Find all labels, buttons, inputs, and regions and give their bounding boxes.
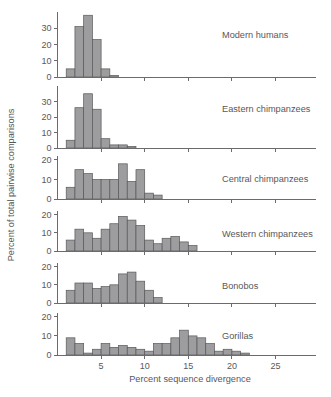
bar xyxy=(119,164,128,199)
panel-label-3: Central chimpanzees xyxy=(222,174,309,184)
bar xyxy=(119,216,128,251)
y-tick-label: 10 xyxy=(41,175,51,185)
bar xyxy=(145,351,154,355)
bar xyxy=(171,338,180,355)
panel-3: 01020Central chimpanzees xyxy=(41,155,316,204)
y-tick-label: 0 xyxy=(46,246,51,256)
panel-label-2: Eastern chimpanzees xyxy=(222,104,311,114)
y-tick-label: 10 xyxy=(41,280,51,290)
bar xyxy=(171,236,180,251)
y-tick-label: 20 xyxy=(41,155,51,165)
bar xyxy=(162,238,171,251)
y-tick-label: 0 xyxy=(46,143,51,153)
bar xyxy=(127,181,136,199)
bar xyxy=(101,179,110,199)
bar xyxy=(84,174,93,199)
panel-5: 01020Bonobos xyxy=(41,262,316,308)
bar xyxy=(127,220,136,251)
panel-3-bars xyxy=(66,164,162,199)
y-axis-title: Percent of total pairwise comparisons xyxy=(6,108,16,261)
bar xyxy=(92,288,101,303)
bar xyxy=(92,238,101,251)
bar xyxy=(180,330,189,355)
bar xyxy=(223,349,232,355)
bar xyxy=(101,229,110,251)
y-tick-label: 10 xyxy=(41,331,51,341)
bar xyxy=(84,15,93,77)
panel-2-bars xyxy=(66,94,136,148)
bar xyxy=(136,170,145,199)
panel-5-bars xyxy=(66,272,162,303)
bar xyxy=(153,344,162,355)
x-tick-label: 15 xyxy=(183,361,193,371)
x-tick-label: 20 xyxy=(227,361,237,371)
bar xyxy=(136,281,145,303)
x-tick-label: 5 xyxy=(99,361,104,371)
bar xyxy=(162,344,171,355)
bar xyxy=(75,229,84,251)
y-tick-label: 10 xyxy=(41,128,51,138)
bar xyxy=(66,290,75,303)
bar xyxy=(188,246,197,251)
bar xyxy=(153,298,162,303)
bar xyxy=(145,193,154,199)
y-tick-label: 0 xyxy=(46,72,51,82)
bar xyxy=(84,233,93,251)
y-tick-label: 20 xyxy=(41,40,51,50)
bar xyxy=(101,344,110,355)
bar xyxy=(110,224,119,251)
bar xyxy=(75,170,84,199)
y-tick-label: 0 xyxy=(46,350,51,360)
panel-1-bars xyxy=(66,15,118,77)
bar xyxy=(136,226,145,251)
bar xyxy=(145,290,154,303)
panel-label-5: Bonobos xyxy=(222,281,259,291)
y-tick-label: 20 xyxy=(41,112,51,122)
bar xyxy=(136,349,145,355)
y-tick-label: 30 xyxy=(41,97,51,107)
panel-6: 01020510152025Gorillas xyxy=(41,312,316,371)
bar xyxy=(66,338,75,355)
bar xyxy=(110,347,119,355)
y-tick-label: 0 xyxy=(46,298,51,308)
bar xyxy=(153,195,162,199)
bar xyxy=(84,283,93,303)
bar xyxy=(188,336,197,355)
bar xyxy=(127,272,136,303)
bar xyxy=(101,287,110,303)
x-tick-label: 25 xyxy=(270,361,280,371)
y-tick-label: 20 xyxy=(41,312,51,322)
bar xyxy=(110,179,119,199)
bar xyxy=(66,187,75,199)
y-tick-label: 0 xyxy=(46,194,51,204)
bar xyxy=(75,27,84,77)
bar xyxy=(75,283,84,303)
bar xyxy=(75,108,84,148)
bar xyxy=(119,345,128,355)
y-tick-label: 10 xyxy=(41,56,51,66)
y-tick-label: 10 xyxy=(41,228,51,238)
histogram-figure: 0102030Modern humans0102030Eastern chimp… xyxy=(0,0,331,397)
bar xyxy=(92,109,101,148)
bar xyxy=(197,338,206,355)
x-tick-label: 10 xyxy=(140,361,150,371)
bar xyxy=(206,344,215,355)
bar xyxy=(110,285,119,303)
bar xyxy=(214,351,223,355)
y-tick-label: 20 xyxy=(41,262,51,272)
panel-2: 0102030Eastern chimpanzees xyxy=(41,86,316,153)
bar xyxy=(66,140,75,148)
panel-1: 0102030Modern humans xyxy=(41,12,316,82)
bar xyxy=(145,240,154,251)
y-tick-label: 30 xyxy=(41,23,51,33)
bar xyxy=(66,240,75,251)
bar xyxy=(101,69,110,77)
bar xyxy=(127,347,136,355)
bar xyxy=(180,242,189,251)
panel-label-4: Western chimpanzees xyxy=(222,229,313,239)
x-axis-title: Percent sequence divergence xyxy=(129,374,251,384)
y-tick-label: 20 xyxy=(41,210,51,220)
panel-4-bars xyxy=(66,216,197,251)
chart-canvas: 0102030Modern humans0102030Eastern chimp… xyxy=(0,0,331,397)
bar xyxy=(232,351,241,355)
